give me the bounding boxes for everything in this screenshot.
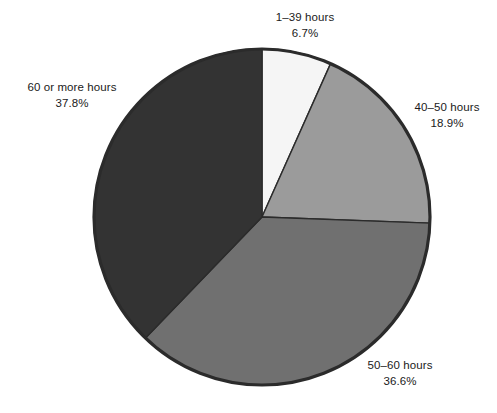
pie-label-40-50-hours: 40–50 hours 18.9% [398, 100, 496, 131]
pie-label-40-50-hours-name: 40–50 hours [398, 100, 496, 116]
pie-wedge-group [94, 49, 430, 385]
pie-label-50-60-hours-name: 50–60 hours [350, 358, 450, 374]
pie-label-60-or-more-hours: 60 or more hours 37.8% [8, 80, 136, 111]
pie-chart-canvas [0, 0, 497, 413]
pie-label-1-39-hours: 1–39 hours 6.7% [250, 10, 360, 41]
pie-label-50-60-hours-value: 36.6% [350, 374, 450, 390]
pie-label-60-or-more-hours-value: 37.8% [8, 96, 136, 112]
pie-label-40-50-hours-value: 18.9% [398, 116, 496, 132]
pie-label-1-39-hours-name: 1–39 hours [250, 10, 360, 26]
pie-label-60-or-more-hours-name: 60 or more hours [8, 80, 136, 96]
pie-label-1-39-hours-value: 6.7% [250, 26, 360, 42]
pie-chart-figure: 1–39 hours 6.7% 40–50 hours 18.9% 50–60 … [0, 0, 497, 413]
pie-label-50-60-hours: 50–60 hours 36.6% [350, 358, 450, 389]
